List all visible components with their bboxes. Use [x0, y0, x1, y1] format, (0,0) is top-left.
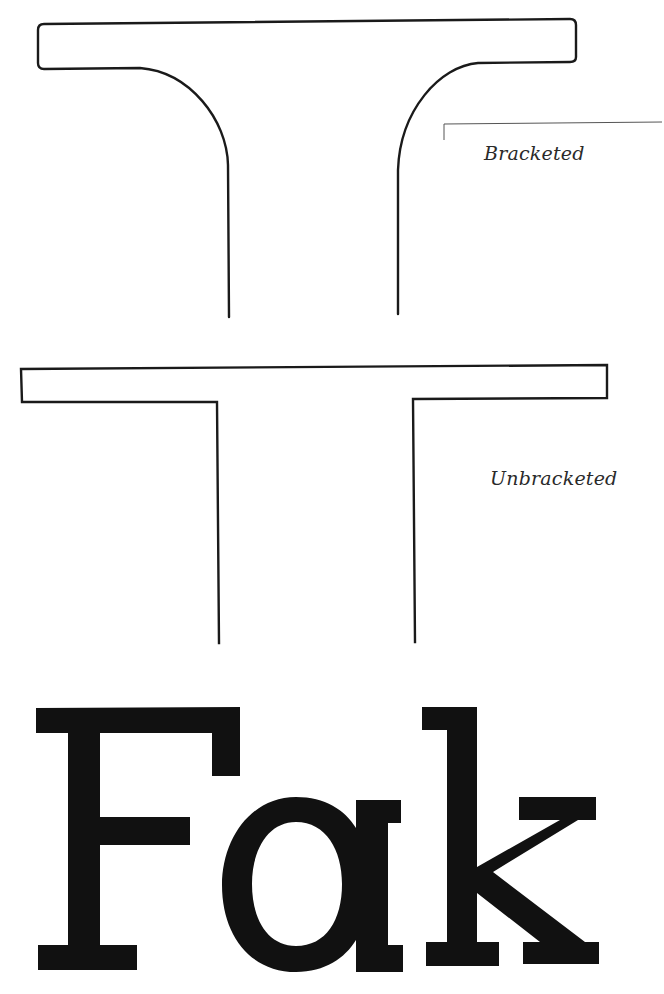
letter-k: [422, 707, 599, 966]
letter-f: [36, 707, 240, 970]
bracketed-serif-diagram: [38, 19, 576, 317]
bracketed-label: Bracketed: [484, 142, 585, 164]
letter-a: [222, 797, 403, 972]
bracketed-leader-line: [444, 122, 662, 140]
specimen-text-fak: [36, 707, 599, 972]
serif-comparison-figure: Bracketed Unbracketed: [0, 0, 664, 994]
unbracketed-label: Unbracketed: [490, 467, 617, 489]
unbracketed-serif-diagram: [21, 365, 607, 643]
